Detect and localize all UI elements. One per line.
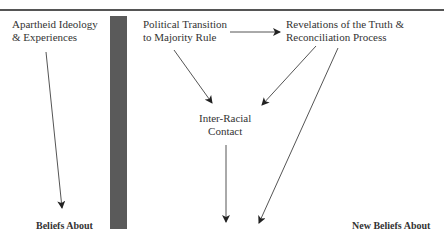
arrow-apartheid-to-beliefs [46,52,62,208]
arrow-revelations-to-new-beliefs [259,48,338,223]
arrow-revelations-to-contact [262,46,316,105]
arrows-layer [0,0,444,229]
arrow-political-to-contact [174,50,212,103]
